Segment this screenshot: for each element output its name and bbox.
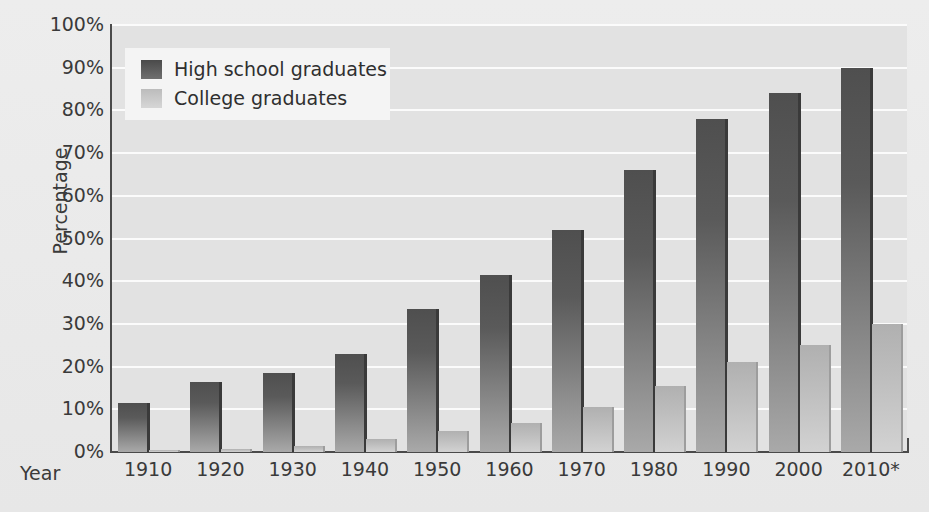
legend-label-high-school: High school graduates: [174, 60, 387, 79]
bar-high-school-1970: [552, 230, 584, 452]
x-axis-end-cap: [907, 438, 909, 453]
y-axis-tick-label: 20%: [6, 357, 104, 376]
bar-high-school-1920: [190, 382, 222, 452]
y-axis-tick-label: 0%: [6, 442, 104, 461]
bar-high-school-2010: [841, 68, 873, 452]
bar-high-school-1980: [624, 170, 656, 452]
y-axis-tick-label: 80%: [6, 100, 104, 119]
gridline: [112, 24, 907, 26]
bar-high-school-2000: [769, 93, 801, 452]
y-axis-tick-label: 100%: [6, 15, 104, 34]
bar-college-2000: [800, 345, 831, 452]
y-axis-tick-label: 30%: [6, 314, 104, 333]
legend-label-college: College graduates: [174, 89, 347, 108]
y-axis-tick-label: 40%: [6, 271, 104, 290]
chart-legend: High school graduates College graduates: [125, 48, 390, 120]
y-axis-tick-label: 10%: [6, 399, 104, 418]
bar-college-1990: [727, 362, 758, 452]
bar-college-1980: [655, 386, 686, 452]
bar-college-1960: [511, 423, 542, 452]
legend-swatch-college-icon: [141, 89, 162, 108]
bar-high-school-1910: [118, 403, 150, 452]
bar-college-1910: [149, 450, 180, 452]
bar-high-school-1930: [263, 373, 295, 452]
bar-high-school-1990: [696, 119, 728, 452]
bar-high-school-1950: [407, 309, 439, 452]
chart-figure: 0%10%20%30%40%50%60%70%80%90%100% Percen…: [0, 0, 929, 512]
bar-high-school-1960: [480, 275, 512, 452]
legend-item-college: College graduates: [141, 84, 390, 113]
bar-college-2010: [872, 324, 903, 452]
y-axis-title: Percentage: [49, 131, 71, 271]
bar-college-1940: [366, 439, 397, 452]
bar-college-1950: [438, 431, 469, 452]
bar-college-1930: [294, 446, 325, 452]
x-axis-title: Year: [20, 462, 60, 484]
x-axis-tick-label: 2010*: [821, 458, 921, 480]
y-axis-line: [110, 24, 112, 453]
legend-item-high-school: High school graduates: [141, 55, 390, 84]
bar-college-1920: [221, 449, 252, 452]
bar-high-school-1940: [335, 354, 367, 452]
bar-college-1970: [583, 407, 614, 452]
y-axis-tick-label: 90%: [6, 58, 104, 77]
legend-swatch-high-school-icon: [141, 60, 162, 79]
